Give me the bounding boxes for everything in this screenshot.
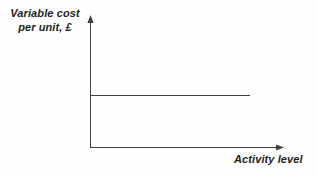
arrow-up-icon bbox=[87, 15, 93, 23]
x-axis-label: Activity level bbox=[234, 153, 303, 167]
arrow-right-icon bbox=[276, 144, 284, 150]
chart-plot-area bbox=[0, 0, 317, 176]
variable-cost-per-unit-chart: Variable cost per unit, £ Activity level bbox=[0, 0, 317, 176]
